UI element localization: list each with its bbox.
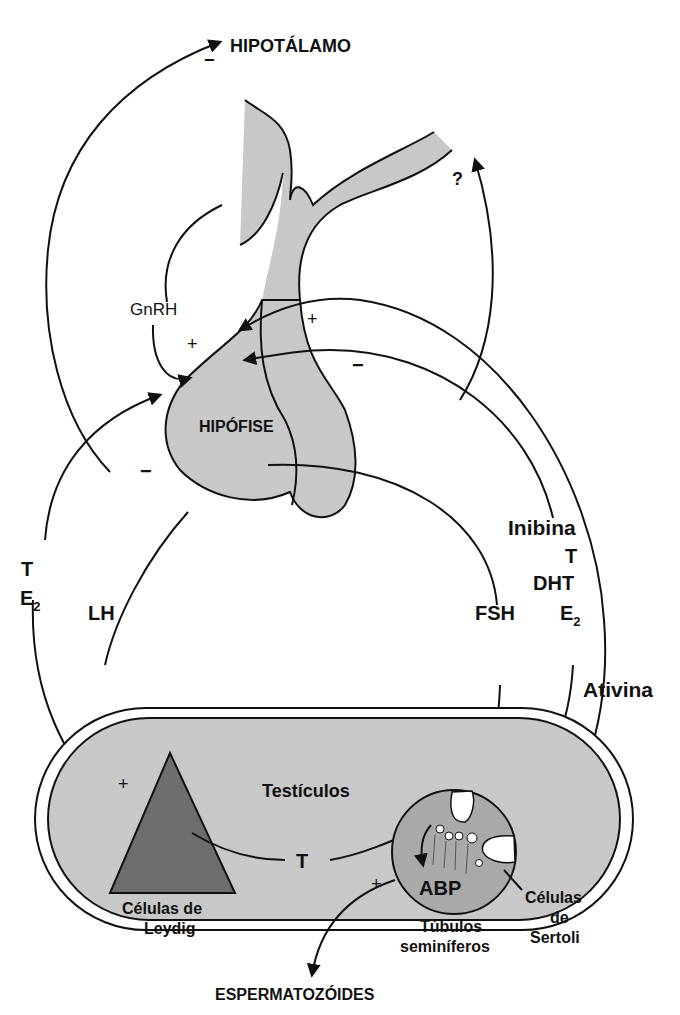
fsh-label: FSH [475,602,515,624]
tubules-label-line1: Túbulos [420,918,482,935]
inhibina-minus-sign: − [352,354,364,376]
gnrh-label: GnRH [130,300,177,319]
leydig-label-line2: Leydig [144,920,196,937]
arrow-lh-upper [105,512,188,665]
leydig-label-line1: Células de [122,900,202,917]
pituitary-stalk [240,100,452,300]
t-mid-label: T [296,850,308,872]
t-left-label: T [21,558,33,580]
spermatozoa-label: ESPERMATOZÓIDES [215,985,375,1003]
hpg-axis-diagram: HIPÓFISE HIPOTÁLAMO − GnRH + ? + − − T E… [0,0,680,1015]
t-right-label: T [565,545,577,567]
te2-minus-sign: − [140,460,152,482]
tubules-label-line2: seminíferos [400,938,490,955]
e2-left-label: E2 [20,587,41,614]
unknown-label: ? [452,169,463,189]
lh-plus-sign: + [118,774,129,794]
ativina-plus-sign: + [307,309,318,329]
hypothalamus-minus-sign: − [204,50,215,70]
e2-right-label: E2 [560,602,581,629]
ativina-label: Ativina [583,678,653,701]
sertoli-label-line1: Células [525,889,582,906]
testes: Testículos + Células de Leydig T + [35,708,633,955]
testes-label: Testículos [262,781,350,801]
tubule-plus-sign: + [371,874,382,894]
inhibina-label: Inibina [508,516,576,539]
hypothalamus-label: HIPOTÁLAMO [230,35,351,56]
gnrh-plus-sign: + [187,334,198,354]
abp-label: ABP [419,877,461,899]
pituitary-gland: HIPÓFISE [166,300,356,517]
arrow-gnrh [166,205,222,302]
sertoli-cell-top [451,791,474,822]
sertoli-label-line2: de [550,909,569,926]
sertoli-label-line3: Sertoli [530,929,580,946]
arrow-gnrh-lower [153,325,190,379]
pituitary-label: HIPÓFISE [199,417,274,435]
lh-label: LH [88,602,115,624]
dht-label: DHT [533,572,574,594]
